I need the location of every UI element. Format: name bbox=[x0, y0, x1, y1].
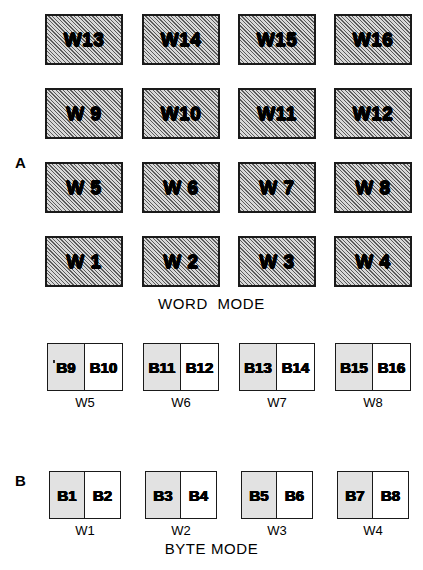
byte-cell-label: B14 bbox=[282, 359, 310, 376]
word-cell-label: W 7 bbox=[259, 177, 294, 199]
word-mode-title: WORD MODE bbox=[0, 296, 423, 311]
byte-cell-b4: B4 bbox=[181, 472, 216, 518]
byte-cell-b16: B16 bbox=[373, 344, 410, 390]
word-cell-w10: W10 bbox=[142, 88, 220, 139]
word-cell-label: W 3 bbox=[259, 251, 294, 273]
word-cell-w1: W 1 bbox=[45, 236, 123, 287]
byte-cell-b12: B12 bbox=[181, 344, 218, 390]
byte-cell-label: B10 bbox=[90, 359, 118, 376]
byte-word-w8: B15 B16 bbox=[335, 343, 411, 391]
word-cell-w15: W15 bbox=[238, 14, 316, 65]
word-cell-label: W 6 bbox=[163, 177, 198, 199]
word-cell-w8: W 8 bbox=[334, 162, 412, 213]
byte-cell-b3: B3 bbox=[146, 472, 181, 518]
byte-cell-b8: B8 bbox=[373, 472, 408, 518]
word-cell-w6: W 6 bbox=[142, 162, 220, 213]
byte-cell-label: B12 bbox=[186, 359, 214, 376]
byte-cell-b1: B1 bbox=[50, 472, 85, 518]
word-cell-label: W 5 bbox=[66, 177, 101, 199]
byte-cell-b11: B11 bbox=[144, 344, 181, 390]
byte-word-w2: B3 B4 bbox=[145, 471, 217, 519]
byte-word-caption-w1: W1 bbox=[49, 524, 121, 537]
word-cell-w4: W 4 bbox=[334, 236, 412, 287]
panel-letter-a: A bbox=[15, 155, 26, 170]
byte-cell-label: B13 bbox=[244, 359, 272, 376]
word-cell-w2: W 2 bbox=[142, 236, 220, 287]
word-cell-w13: W13 bbox=[45, 14, 123, 65]
byte-cell-b5: B5 bbox=[242, 472, 277, 518]
word-cell-w3: W 3 bbox=[238, 236, 316, 287]
byte-cell-label: B5 bbox=[249, 487, 268, 504]
byte-mode-title: BYTE MODE bbox=[0, 541, 423, 556]
word-cell-label: W 1 bbox=[66, 251, 101, 273]
byte-cell-label: B2 bbox=[93, 487, 112, 504]
byte-word-caption-w2: W2 bbox=[145, 524, 217, 537]
byte-cell-b9: B9 bbox=[48, 344, 85, 390]
word-cell-label: W13 bbox=[64, 29, 105, 51]
byte-word-caption-w3: W3 bbox=[241, 524, 313, 537]
word-cell-w5: W 5 bbox=[45, 162, 123, 213]
word-cell-label: W 9 bbox=[66, 103, 101, 125]
word-cell-w12: W12 bbox=[334, 88, 412, 139]
memory-word-byte-mode-figure: A W13 W14 W15 W16 W 9 W10 W11 W12 W 5 W … bbox=[0, 0, 423, 570]
byte-cell-b15: B15 bbox=[336, 344, 373, 390]
word-cell-label: W10 bbox=[161, 103, 202, 125]
word-cell-label: W15 bbox=[257, 29, 298, 51]
word-cell-label: W 4 bbox=[355, 251, 390, 273]
word-cell-w14: W14 bbox=[142, 14, 220, 65]
byte-cell-label: B6 bbox=[285, 487, 304, 504]
word-cell-w7: W 7 bbox=[238, 162, 316, 213]
byte-cell-label: B8 bbox=[381, 487, 400, 504]
word-cell-label: W12 bbox=[353, 103, 394, 125]
byte-cell-label: B3 bbox=[153, 487, 172, 504]
byte-word-caption-w6: W6 bbox=[143, 396, 219, 409]
word-cell-label: W16 bbox=[353, 29, 394, 51]
word-cell-label: W14 bbox=[161, 29, 202, 51]
word-cell-w9: W 9 bbox=[45, 88, 123, 139]
panel-letter-b: B bbox=[15, 473, 26, 488]
byte-cell-label: B15 bbox=[340, 359, 368, 376]
byte-cell-b13: B13 bbox=[240, 344, 277, 390]
byte-word-w1: B1 B2 bbox=[49, 471, 121, 519]
word-cell-label: W 2 bbox=[163, 251, 198, 273]
word-cell-label: W11 bbox=[257, 103, 297, 125]
byte-cell-label: B1 bbox=[57, 487, 76, 504]
scan-speck bbox=[53, 360, 55, 363]
byte-cell-b6: B6 bbox=[277, 472, 312, 518]
byte-cell-label: B7 bbox=[345, 487, 364, 504]
byte-word-caption-w8: W8 bbox=[335, 396, 411, 409]
byte-cell-label: B11 bbox=[149, 359, 176, 376]
word-cell-w11: W11 bbox=[238, 88, 316, 139]
byte-word-caption-w5: W5 bbox=[47, 396, 123, 409]
byte-cell-b14: B14 bbox=[277, 344, 314, 390]
byte-cell-label: B9 bbox=[56, 359, 75, 376]
byte-cell-b10: B10 bbox=[85, 344, 122, 390]
byte-cell-label: B4 bbox=[189, 487, 208, 504]
byte-word-w7: B13 B14 bbox=[239, 343, 315, 391]
word-cell-w16: W16 bbox=[334, 14, 412, 65]
word-cell-label: W 8 bbox=[355, 177, 390, 199]
byte-word-w3: B5 B6 bbox=[241, 471, 313, 519]
byte-cell-label: B16 bbox=[378, 359, 406, 376]
byte-cell-b7: B7 bbox=[338, 472, 373, 518]
byte-word-caption-w4: W4 bbox=[337, 524, 409, 537]
byte-word-caption-w7: W7 bbox=[239, 396, 315, 409]
byte-word-w6: B11 B12 bbox=[143, 343, 219, 391]
byte-cell-b2: B2 bbox=[85, 472, 120, 518]
byte-word-w4: B7 B8 bbox=[337, 471, 409, 519]
byte-word-w5: B9 B10 bbox=[47, 343, 123, 391]
